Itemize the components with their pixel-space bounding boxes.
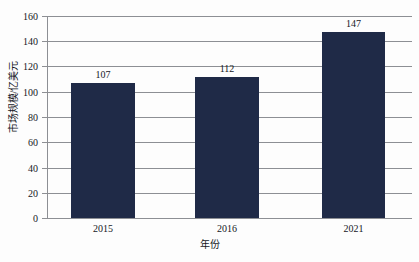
gridline-160 <box>47 16 412 17</box>
y-tick-mark-120 <box>42 66 47 67</box>
bar-chart: 160 140 120 100 80 60 40 20 0 107 112 14… <box>0 0 419 262</box>
y-tick-mark-80 <box>42 117 47 118</box>
x-axis-title: 年份 <box>0 240 419 250</box>
y-tick-mark-160 <box>42 16 47 17</box>
bar-value-2021: 147 <box>322 19 385 29</box>
y-tick-mark-140 <box>42 41 47 42</box>
y-axis-line <box>47 16 48 219</box>
y-tick-label-160: 160 <box>2 12 38 22</box>
bar-2016 <box>195 77 259 218</box>
bar-value-2016: 112 <box>195 64 259 74</box>
bar-2021 <box>322 32 385 218</box>
y-tick-mark-20 <box>42 193 47 194</box>
x-tick-label-2015: 2015 <box>71 224 135 234</box>
x-tick-label-2021: 2021 <box>322 224 385 234</box>
y-tick-mark-0 <box>42 218 47 219</box>
y-tick-label-0: 0 <box>2 214 38 224</box>
y-tick-label-140: 140 <box>2 37 38 47</box>
x-axis-line <box>47 218 412 219</box>
plot-area <box>47 16 412 218</box>
bar-2015 <box>71 83 135 218</box>
y-tick-label-20: 20 <box>2 189 38 199</box>
y-tick-mark-100 <box>42 92 47 93</box>
bar-value-2015: 107 <box>71 70 135 80</box>
y-tick-mark-40 <box>42 168 47 169</box>
y-axis-title: 市场规模/亿美元 <box>9 37 19 157</box>
x-tick-label-2016: 2016 <box>195 224 259 234</box>
y-tick-mark-60 <box>42 142 47 143</box>
y-tick-label-40: 40 <box>2 164 38 174</box>
y-tick-label-60: 60 <box>2 138 38 148</box>
